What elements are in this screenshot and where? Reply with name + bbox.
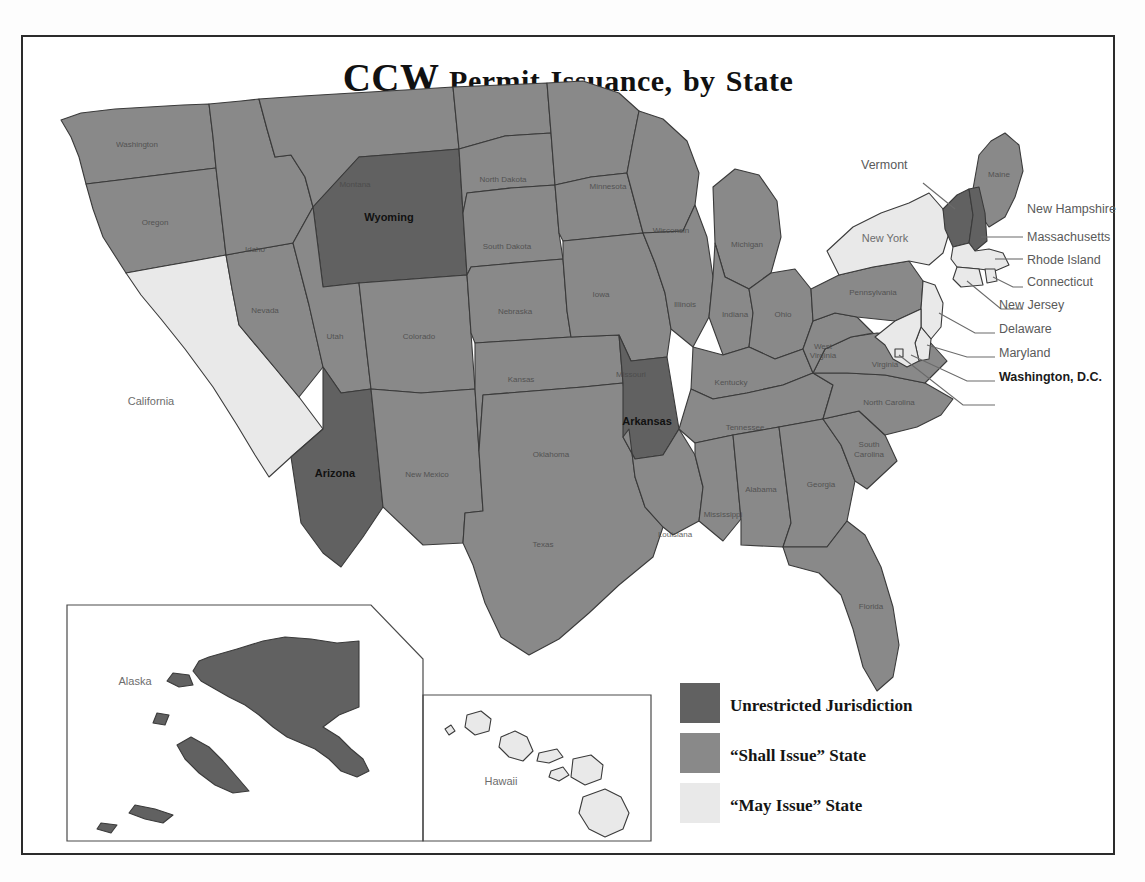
alaska-inset: Alaska	[67, 605, 423, 841]
label-mississippi: Mississippi	[704, 510, 743, 519]
label-colorado: Colorado	[403, 332, 436, 341]
label-southcarolina: South	[859, 440, 880, 449]
map-canvas: .s{stroke:#3a3a3a;stroke-width:1.1;strok…	[23, 37, 1117, 853]
label-wyoming: Wyoming	[364, 211, 413, 223]
map-page: CCW Permit Issuance, by State .s{stroke:…	[0, 0, 1145, 882]
legend-swatch-unrestricted	[680, 683, 720, 723]
callout-maryland: Maryland	[999, 346, 1050, 360]
label-california: California	[128, 395, 175, 407]
map-frame: CCW Permit Issuance, by State .s{stroke:…	[21, 35, 1115, 855]
states-layer	[61, 81, 1023, 691]
hawaii-inset: Hawaii	[423, 695, 651, 841]
label-northcarolina: North Carolina	[863, 398, 915, 407]
label-kentucky: Kentucky	[715, 378, 748, 387]
label-georgia: Georgia	[807, 480, 836, 489]
legend-swatch-shall-issue	[680, 733, 720, 773]
label-kansas: Kansas	[508, 375, 535, 384]
label-utah: Utah	[327, 332, 344, 341]
label-missouri: Missouri	[616, 370, 646, 379]
legend-label-shall-issue: “Shall Issue” State	[730, 746, 866, 765]
callout-massachusetts: Massachusetts	[1027, 230, 1110, 244]
callout-newhampshire: New Hampshire	[1027, 202, 1116, 216]
label-newyork: New York	[862, 232, 909, 244]
legend-swatch-may-issue	[680, 783, 720, 823]
state-rhodeisland[interactable]	[985, 269, 997, 283]
label-michigan: Michigan	[731, 240, 763, 249]
callout-connecticut: Connecticut	[1027, 275, 1094, 289]
label-oregon: Oregon	[142, 218, 169, 227]
hawaii-shapes[interactable]	[445, 711, 629, 837]
legend: Unrestricted Jurisdiction “Shall Issue” …	[680, 683, 913, 823]
label-maine: Maine	[988, 170, 1010, 179]
state-connecticut[interactable]	[953, 267, 983, 287]
alaska-shape[interactable]	[97, 637, 369, 833]
label-westvirginia-2: Virginia	[810, 351, 837, 360]
callout-washington-dc: Washington, D.C.	[999, 370, 1102, 384]
label-iowa: Iowa	[593, 290, 610, 299]
callout-newjersey: New Jersey	[999, 298, 1065, 312]
label-nebraska: Nebraska	[498, 307, 533, 316]
state-wisconsin[interactable]	[627, 111, 699, 233]
label-westvirginia: West	[814, 342, 833, 351]
callout-vermont: Vermont	[861, 158, 908, 172]
label-florida: Florida	[859, 602, 884, 611]
label-alaska: Alaska	[118, 675, 152, 687]
label-alabama: Alabama	[745, 485, 777, 494]
state-kansas[interactable]	[467, 259, 571, 343]
label-tennessee: Tennessee	[726, 423, 765, 432]
legend-label-unrestricted: Unrestricted Jurisdiction	[730, 696, 913, 715]
callout-delaware: Delaware	[999, 322, 1052, 336]
label-nevada: Nevada	[251, 306, 279, 315]
label-southdakota: South Dakota	[483, 242, 532, 251]
label-northdakota: North Dakota	[479, 175, 527, 184]
legend-label-may-issue: “May Issue” State	[730, 796, 863, 815]
label-louisiana: Louisiana	[658, 530, 693, 539]
label-ohio: Ohio	[775, 310, 792, 319]
state-minnesota[interactable]	[547, 81, 639, 185]
label-arizona: Arizona	[315, 467, 356, 479]
state-dc[interactable]	[895, 349, 903, 357]
label-oklahoma: Oklahoma	[533, 450, 570, 459]
callout-rhodeisland: Rhode Island	[1027, 253, 1101, 267]
label-hawaii: Hawaii	[484, 775, 517, 787]
label-montana: Montana	[339, 180, 371, 189]
label-virginia: Virginia	[872, 360, 899, 369]
label-southcarolina-2: Carolina	[854, 450, 884, 459]
label-arkansas: Arkansas	[622, 415, 672, 427]
label-newmexico: New Mexico	[405, 470, 449, 479]
label-wisconsin: Wisconsin	[653, 226, 689, 235]
label-minnesota: Minnesota	[590, 182, 627, 191]
label-pennsylvania: Pennsylvania	[849, 288, 897, 297]
label-indiana: Indiana	[722, 310, 749, 319]
label-illinois: Illinois	[674, 300, 696, 309]
label-idaho: Idaho	[245, 245, 266, 254]
label-texas: Texas	[533, 540, 554, 549]
label-washington: Washington	[116, 140, 158, 149]
